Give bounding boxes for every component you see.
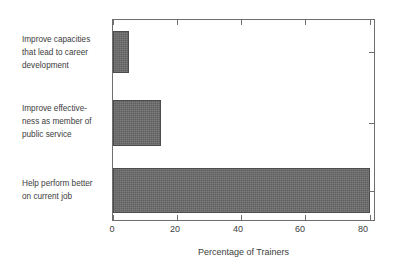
category-label-2-line-0: Help perform better	[22, 177, 110, 190]
x-tick-bottom-2	[241, 215, 242, 220]
category-label-1: Improve effective- ness as member of pub…	[22, 102, 110, 141]
x-tick-bottom-3	[305, 215, 306, 220]
xtick-label-2: 40	[233, 224, 243, 235]
x-tick-top-3	[305, 20, 306, 25]
bar-chart-figure: Improve capacities that lead to career d…	[0, 0, 394, 269]
category-label-1-line-0: Improve effective-	[22, 102, 110, 115]
category-label-0: Improve capacities that lead to career d…	[22, 33, 110, 72]
category-label-2-line-1: on current job	[22, 190, 110, 203]
category-label-1-line-1: ness as member of	[22, 115, 110, 128]
x-tick-bottom-0	[113, 215, 114, 220]
x-tick-bottom-1	[177, 215, 178, 220]
x-axis-title: Percentage of Trainers	[112, 246, 375, 258]
category-label-0-line-2: development	[22, 59, 110, 72]
x-tick-top-4	[370, 20, 371, 25]
xtick-label-1: 20	[170, 224, 180, 235]
x-tick-top-0	[113, 20, 114, 25]
plot-area	[112, 19, 375, 221]
x-tick-top-2	[241, 20, 242, 25]
category-label-2: Help perform better on current job	[22, 177, 110, 203]
xtick-label-3: 60	[295, 224, 305, 235]
x-tick-top-1	[177, 20, 178, 25]
x-tick-bottom-4	[370, 215, 371, 220]
bar-0	[113, 31, 129, 73]
xtick-label-0: 0	[109, 224, 114, 235]
y-tick-right-0	[369, 52, 374, 53]
y-tick-right-1	[369, 123, 374, 124]
category-label-0-line-0: Improve capacities	[22, 33, 110, 46]
category-label-1-line-2: public service	[22, 128, 110, 141]
bar-2	[113, 168, 370, 213]
xtick-label-4: 80	[358, 224, 368, 235]
bar-1	[113, 100, 161, 146]
y-tick-right-2	[369, 191, 374, 192]
category-label-0-line-1: that lead to career	[22, 46, 110, 59]
